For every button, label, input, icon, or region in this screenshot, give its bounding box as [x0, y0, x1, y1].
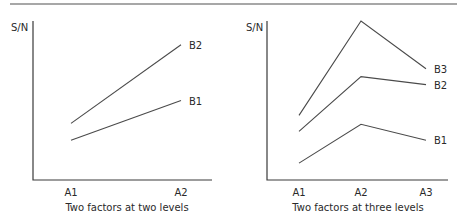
series-label: B1: [189, 96, 202, 107]
chart-two-levels: S/NA1A2B1B2Two factors at two levels: [11, 21, 212, 213]
chart-caption: Two factors at two levels: [64, 202, 188, 213]
axes: [33, 21, 212, 180]
x-tick-label: A2: [174, 187, 187, 198]
series-line-b2: [299, 77, 426, 132]
series-label: B2: [434, 80, 447, 91]
series-label: B1: [434, 135, 447, 146]
x-tick-label: A2: [354, 187, 367, 198]
chart-three-levels: S/NA1A2A3B1B2B3Two factors at three leve…: [246, 21, 448, 213]
y-axis-label: S/N: [11, 22, 28, 33]
x-tick-label: A1: [292, 187, 305, 198]
series-line-b1: [299, 124, 426, 163]
series-line-b1: [71, 101, 181, 141]
series-line-b3: [299, 21, 426, 115]
series-label: B3: [434, 64, 447, 75]
axes: [267, 21, 448, 180]
x-tick-label: A3: [419, 187, 432, 198]
y-axis-label: S/N: [246, 22, 263, 33]
chart-caption: Two factors at three levels: [291, 202, 423, 213]
series-label: B2: [189, 40, 202, 51]
series-line-b2: [71, 45, 181, 124]
x-tick-label: A1: [64, 187, 77, 198]
figure-canvas: S/NA1A2B1B2Two factors at two levels S/N…: [0, 0, 457, 219]
